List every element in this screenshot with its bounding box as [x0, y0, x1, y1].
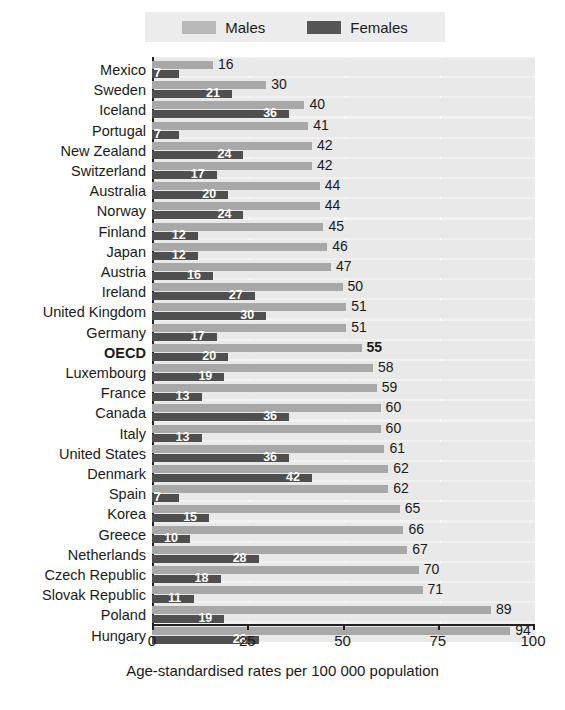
row-label-united-kingdom: United Kingdom	[0, 303, 146, 321]
value-label-males: 55	[367, 343, 383, 352]
chart-row: Portugal417	[0, 121, 565, 141]
chart-row: Hungary9428	[0, 626, 565, 646]
value-label-males: 70	[424, 565, 440, 574]
value-label-females: 16	[187, 271, 201, 280]
bar-males	[152, 324, 346, 332]
value-label-males: 44	[325, 181, 341, 190]
chart-row: Greece6610	[0, 525, 565, 545]
bar-females	[152, 353, 228, 361]
bar-males	[152, 586, 423, 594]
chart-row: Netherlands6728	[0, 545, 565, 565]
bar-females	[152, 514, 209, 522]
value-label-males: 58	[378, 363, 394, 372]
bar-males	[152, 182, 320, 190]
row-label-luxembourg: Luxembourg	[0, 364, 146, 382]
chart-row: Spain627	[0, 484, 565, 504]
value-label-females: 18	[195, 574, 209, 583]
row-label-spain: Spain	[0, 485, 146, 503]
value-label-females: 36	[263, 412, 277, 421]
chart-row: Finland4512	[0, 222, 565, 242]
bar-females	[152, 171, 217, 179]
value-label-males: 66	[408, 525, 424, 534]
bar-males	[152, 263, 331, 271]
chart-row: Luxembourg5819	[0, 363, 565, 383]
value-label-males: 71	[428, 585, 444, 594]
row-label-oecd: OECD	[0, 344, 146, 362]
bar-males	[152, 485, 388, 493]
value-label-males: 62	[393, 464, 409, 473]
value-label-females: 11	[168, 594, 181, 603]
row-label-australia: Australia	[0, 182, 146, 200]
row-label-iceland: Iceland	[0, 101, 146, 119]
value-label-males: 46	[332, 242, 348, 251]
value-label-males: 61	[389, 444, 405, 453]
value-label-females: 12	[172, 251, 186, 260]
tick-label-75: 75	[408, 632, 468, 649]
value-label-males: 47	[336, 262, 352, 271]
bar-females	[152, 615, 224, 623]
chart-row: United Kingdom5130	[0, 302, 565, 322]
tick-mark-75	[438, 624, 440, 630]
value-label-males: 30	[271, 80, 287, 89]
chart-row: Switzerland4217	[0, 161, 565, 181]
value-label-males: 44	[325, 201, 341, 210]
bar-males	[152, 202, 320, 210]
value-label-females: 7	[154, 130, 161, 139]
row-label-netherlands: Netherlands	[0, 546, 146, 564]
bar-females	[152, 333, 217, 341]
row-label-ireland: Ireland	[0, 283, 146, 301]
value-label-females: 36	[263, 453, 277, 462]
bar-males	[152, 283, 343, 291]
row-label-austria: Austria	[0, 263, 146, 281]
chart-row: Italy6013	[0, 424, 565, 444]
chart-row: Ireland5027	[0, 282, 565, 302]
bar-females	[152, 575, 221, 583]
value-label-females: 28	[233, 554, 247, 563]
chart-row: OECD5520	[0, 343, 565, 363]
value-label-males: 42	[317, 141, 333, 150]
value-label-females: 13	[176, 433, 190, 442]
value-label-females: 21	[206, 89, 220, 98]
value-label-males: 62	[393, 484, 409, 493]
value-label-females: 42	[286, 473, 300, 482]
value-label-males: 67	[412, 545, 428, 554]
chart-row: Iceland4036	[0, 100, 565, 120]
tick-label-100: 100	[503, 632, 563, 649]
row-label-france: France	[0, 384, 146, 402]
bar-females	[152, 373, 224, 381]
value-label-females: 17	[191, 332, 205, 341]
value-label-females: 7	[154, 69, 161, 78]
value-label-females: 13	[176, 392, 190, 401]
value-label-males: 42	[317, 161, 333, 170]
row-label-korea: Korea	[0, 505, 146, 523]
row-label-greece: Greece	[0, 526, 146, 544]
chart-row: Denmark6242	[0, 464, 565, 484]
chart-row: Norway4424	[0, 201, 565, 221]
row-label-slovak-republic: Slovak Republic	[0, 586, 146, 604]
chart-row: Australia4420	[0, 181, 565, 201]
chart-row: Austria4716	[0, 262, 565, 282]
row-label-new-zealand: New Zealand	[0, 142, 146, 160]
value-label-males: 60	[386, 424, 402, 433]
value-label-females: 20	[202, 190, 216, 199]
tick-label-50: 50	[313, 632, 373, 649]
row-label-poland: Poland	[0, 606, 146, 624]
row-label-italy: Italy	[0, 425, 146, 443]
bar-males	[152, 364, 373, 372]
tick-label-25: 25	[217, 632, 277, 649]
chart-row: United States6136	[0, 444, 565, 464]
value-label-females: 24	[217, 210, 231, 219]
row-label-germany: Germany	[0, 324, 146, 342]
row-label-canada: Canada	[0, 404, 146, 422]
chart-row: Japan4612	[0, 242, 565, 262]
bar-males	[152, 344, 362, 352]
bar-rows-container: Mexico167Sweden3021Iceland4036Portugal41…	[0, 0, 565, 710]
value-label-males: 60	[386, 403, 402, 412]
tick-label-0: 0	[122, 632, 182, 649]
row-label-mexico: Mexico	[0, 61, 146, 79]
value-label-females: 36	[263, 109, 277, 118]
value-label-females: 27	[229, 291, 243, 300]
chart-row: France5913	[0, 383, 565, 403]
value-label-males: 16	[218, 60, 234, 69]
row-label-sweden: Sweden	[0, 81, 146, 99]
